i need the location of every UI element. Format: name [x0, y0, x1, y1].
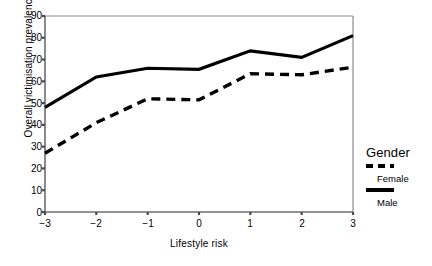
legend-swatch-solid-icon: [366, 188, 394, 192]
series-line-male: [45, 36, 353, 108]
legend-item-male: Male: [366, 186, 432, 210]
legend-title: Gender: [366, 146, 432, 160]
chart-figure: Overall victimisation prevalence 90 80 7…: [0, 0, 432, 266]
legend: Gender Female Male: [366, 146, 432, 210]
plot-area: [0, 0, 432, 266]
plot-frame: [45, 16, 353, 212]
legend-item-female: Female: [366, 162, 432, 186]
legend-swatch-dashed-icon: [366, 164, 394, 168]
legend-label-male: Male: [377, 197, 398, 208]
legend-label-female: Female: [377, 173, 409, 184]
